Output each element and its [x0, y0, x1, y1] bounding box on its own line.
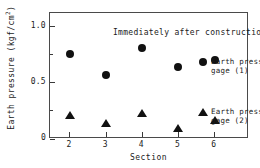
legend-marker-circle-icon: [198, 57, 208, 66]
data-point: [102, 71, 110, 79]
data-point: [138, 44, 146, 52]
data-point: [65, 111, 75, 119]
y-axis-tick-label: 1.0: [16, 21, 46, 30]
legend-label-series-2: Earth pressure gage (2): [211, 107, 260, 125]
data-point: [173, 124, 183, 132]
legend-item-series-1: Earth pressure gage (1): [198, 57, 260, 75]
x-axis-tick-label: 3: [95, 140, 115, 149]
data-point: [101, 119, 111, 127]
x-axis-tick-label: 2: [59, 140, 79, 149]
x-axis-tick-label: 4: [131, 140, 151, 149]
legend-label-series-2-line1: Earth pressure: [211, 107, 260, 116]
x-axis-tick: [214, 132, 215, 137]
circle-marker-icon: [199, 58, 207, 66]
x-axis-title: Section: [49, 153, 248, 162]
data-point: [174, 63, 182, 71]
legend-label-series-2-line2: gage (2): [211, 116, 249, 125]
data-point: [66, 50, 74, 58]
y-axis-tick: [50, 26, 55, 27]
legend-label-series-1-line1: Earth pressure: [211, 57, 260, 66]
y-axis-tick: [50, 54, 53, 55]
y-axis-title-exponent: 2: [4, 11, 11, 15]
x-axis-tick: [69, 132, 70, 137]
y-axis-tick-label: 0: [16, 133, 46, 142]
y-axis-tick-label: 0.5: [16, 77, 46, 86]
x-axis-tick: [178, 132, 179, 137]
x-axis-tick-labels: 23456: [49, 140, 248, 152]
data-point: [137, 109, 147, 117]
y-axis-tick: [50, 110, 53, 111]
plot-area: Immediately after construction Earth pre…: [49, 12, 248, 138]
legend-label-series-1: Earth pressure gage (1): [211, 57, 260, 75]
x-axis-tick-label: 5: [167, 140, 187, 149]
x-axis-tick: [106, 132, 107, 137]
legend-item-series-2: Earth pressure gage (2): [198, 107, 260, 125]
chart-figure: Earth pressure (kgf/cm2) 00.51.0 Immedia…: [0, 0, 260, 168]
legend-label-series-1-line2: gage (1): [211, 66, 249, 75]
y-axis-tick-labels: 00.51.0: [14, 0, 46, 150]
x-axis-tick: [142, 132, 143, 137]
triangle-marker-icon: [198, 108, 208, 116]
chart-title: Immediately after construction: [113, 28, 260, 37]
legend-marker-triangle-icon: [198, 107, 208, 116]
y-axis-tick: [50, 82, 55, 83]
x-axis-tick-label: 6: [204, 140, 224, 149]
